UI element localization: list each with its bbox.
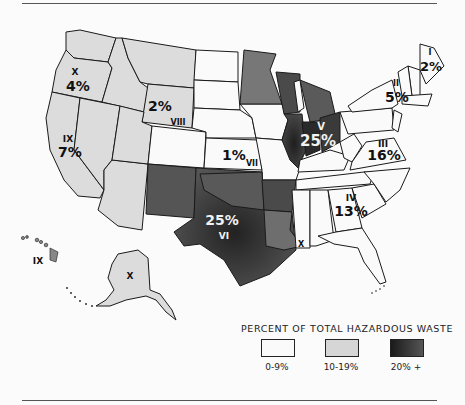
alaska-inset [66,250,176,320]
region-iii-percent: 16% [367,147,401,163]
region-ix-numeral: IX [63,134,73,144]
region-vi-numeral: VI [219,231,229,241]
region-x-percent: 4% [66,78,90,94]
region-ix-percent: 7% [58,144,82,160]
region-ii-numeral: II [393,79,399,88]
florida-keys [371,285,385,294]
region-vi-la-label: X [298,240,305,249]
region-viii-numeral: VIII [170,118,185,127]
region-vii-percent: 1% [222,147,246,163]
region-i-numeral: I [429,48,432,57]
region-x-numeral: X [72,67,79,77]
alaska-label: X [127,271,134,281]
legend-label-mid: 10-19% [311,362,371,372]
hawaii-label: IX [33,256,43,266]
legend-label-high: 20% + [376,362,436,372]
legend-swatch-high [390,339,424,357]
legend-swatch-mid [325,339,359,357]
legend-label-low: 0-9% [247,362,307,372]
region-viii-percent: 2% [148,98,172,114]
legend-swatch-low [261,339,295,357]
region-iv-percent: 13% [334,203,368,219]
region-i-percent: 2% [420,59,442,74]
region-iv-numeral: IV [346,193,356,203]
region-vi-percent: 25% [205,212,239,228]
region-v-numeral: V [317,121,325,132]
region-v-percent: 25% [300,132,336,150]
region-vii-numeral: VII [246,159,258,168]
legend-title: PERCENT OF TOTAL HAZARDOUS WASTE [241,323,453,334]
region-ii-percent: 5% [385,89,409,105]
